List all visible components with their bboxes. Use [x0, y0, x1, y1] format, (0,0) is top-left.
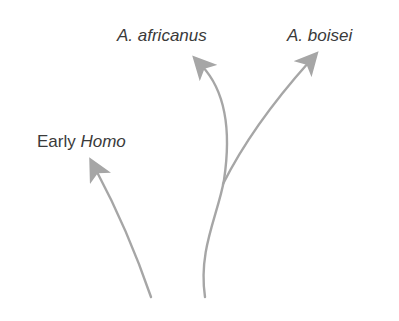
- label-a-africanus: A. africanus: [117, 27, 207, 44]
- label-early-homo: Early Homo: [37, 133, 126, 150]
- phylogeny-diagram: A. africanus A. boisei Early Homo: [0, 0, 399, 321]
- early-homo-branch: [96, 170, 151, 297]
- label-species: A. boisei: [287, 26, 352, 45]
- label-species: A. africanus: [117, 26, 207, 45]
- label-a-boisei: A. boisei: [287, 27, 352, 44]
- label-prefix: Early: [37, 132, 80, 151]
- branch-lines: [0, 0, 399, 321]
- boisei-branch: [223, 62, 309, 184]
- label-genus: Homo: [80, 132, 125, 151]
